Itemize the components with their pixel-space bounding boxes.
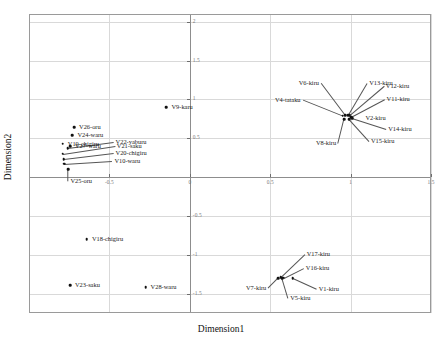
gridline-vertical <box>431 14 432 313</box>
scatter-plot-figure: -0.500.511.5-1.5-1-0.50.511.52 V9-karuV2… <box>0 0 442 345</box>
x-axis-title: Dimension1 <box>0 324 442 334</box>
plot-frame-border <box>29 14 431 313</box>
x-tick-mark <box>431 174 432 177</box>
y-axis-title: Dimension2 <box>3 102 13 212</box>
